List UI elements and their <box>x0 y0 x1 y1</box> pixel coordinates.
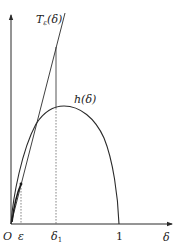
diagram: Tε(δ) h(δ) O ε δ1 1 δ <box>0 0 177 246</box>
h-curve-label: h(δ) <box>74 93 96 106</box>
origin-label: O <box>3 230 12 243</box>
h-curve <box>11 106 119 224</box>
tangent-line <box>11 13 65 224</box>
epsilon-label: ε <box>18 230 24 243</box>
x-axis-label: δ <box>163 231 170 244</box>
one-label: 1 <box>116 230 123 243</box>
delta1-label: δ1 <box>51 230 62 244</box>
tangent-label: Tε(δ) <box>36 13 62 27</box>
tangency-point <box>20 183 23 186</box>
